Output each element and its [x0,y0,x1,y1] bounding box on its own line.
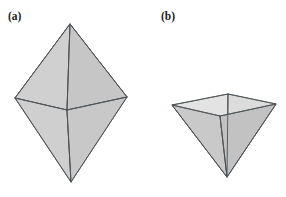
face-lower-front-right [67,97,127,182]
face-upper-front-right [67,24,127,110]
panel-label-b: (b) [161,11,175,23]
shape-inverted-open-pyramid [172,94,276,177]
shape-square-bipyramid [15,24,127,182]
figure-canvas [0,0,286,197]
figure-root: (a) (b) [0,0,286,197]
face-upper-front-left [15,24,70,110]
panel-label-a: (a) [8,11,21,23]
face-outer-front-right [220,104,276,177]
